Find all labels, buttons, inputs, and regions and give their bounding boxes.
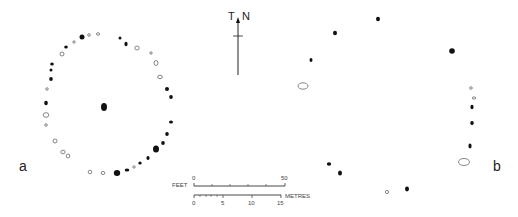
panel-b-label: b: [493, 158, 501, 174]
panel-b-filled-stone: [376, 17, 380, 21]
panel-a-filled-stone: [64, 46, 68, 49]
panel-b-open-stone: [470, 87, 473, 90]
panel-a-filled-stone: [146, 156, 149, 160]
panel-b-open-stone: [472, 97, 476, 99]
scale-metres-tick-5: 5: [221, 200, 224, 206]
scale-feet-tick-0: 0: [192, 175, 195, 181]
panel-a-filled-stone: [124, 42, 127, 46]
panel-b-filled-stone: [333, 31, 337, 36]
panel-a-label: a: [19, 158, 27, 174]
panel-b-filled-stone: [470, 105, 473, 109]
panel-a-open-stone: [150, 52, 152, 54]
panel-a-filled-stone: [169, 95, 173, 99]
scale-bar-feet: [194, 183, 285, 186]
scale-metres-tick-10: 10: [248, 200, 255, 206]
panel-a-filled-stone: [50, 62, 54, 65]
scale-bar-metres: [194, 195, 281, 198]
panel-a-open-stone: [88, 34, 91, 37]
panel-a-open-stone: [66, 154, 70, 158]
scale-metres-tick-0: 0: [192, 200, 195, 206]
panel-a-open-stone: [88, 170, 92, 174]
panel-a-open-stone: [60, 52, 64, 56]
panel-a-filled-stone: [165, 87, 169, 91]
panel-a-stone-circle: [43, 33, 173, 176]
panel-a-filled-stone: [153, 146, 159, 153]
panel-a-filled-stone: [114, 170, 120, 176]
panel-b-filled-stone: [470, 121, 474, 125]
panel-a-open-stone: [133, 166, 135, 168]
panel-a-filled-stone: [165, 132, 169, 136]
north-label-t: T: [228, 10, 235, 22]
panel-a-open-stone: [73, 41, 75, 43]
panel-b-open-stone: [459, 159, 470, 166]
panel-a-filled-stone: [161, 141, 165, 145]
panel-a-open-stone: [101, 171, 105, 174]
panel-a-filled-stone: [119, 37, 122, 40]
scale-metres-label: METRES: [285, 193, 310, 199]
north-arrow-icon: [233, 17, 243, 75]
scale-metres-tick-15: 15: [277, 200, 284, 206]
panel-a-open-stone: [154, 61, 158, 66]
panel-a-open-stone: [61, 150, 65, 154]
panel-a-open-stone: [158, 75, 163, 78]
panel-b-filled-stone: [338, 170, 342, 175]
panel-b-stone-circle: [298, 17, 476, 194]
stone-circle-plan-diagram: [0, 0, 518, 217]
panel-a-centre-filled-stone: [101, 103, 107, 111]
panel-b-filled-stone: [405, 187, 409, 192]
panel-b-filled-stone: [449, 48, 455, 54]
panel-a-open-stone: [43, 113, 49, 118]
panel-b-filled-stone: [468, 144, 471, 149]
panel-a-open-stone: [135, 46, 139, 50]
panel-a-open-stone: [46, 88, 49, 90]
panel-a-filled-stone: [125, 168, 130, 171]
north-label-n: N: [242, 10, 250, 22]
panel-a-open-stone: [97, 33, 100, 36]
panel-a-filled-stone: [50, 68, 53, 71]
panel-b-open-stone: [385, 190, 388, 193]
panel-a-open-stone: [45, 124, 48, 127]
panel-b-filled-stone: [310, 58, 313, 62]
panel-b-filled-stone: [327, 162, 331, 166]
panel-a-filled-stone: [138, 162, 141, 165]
panel-b-open-stone: [298, 83, 308, 89]
panel-a-filled-stone: [169, 120, 173, 123]
panel-a-filled-stone: [49, 77, 53, 81]
panel-a-filled-stone: [80, 35, 85, 40]
panel-a-open-stone: [53, 139, 57, 143]
panel-a-filled-stone: [44, 101, 48, 105]
scale-feet-tick-50: 50: [281, 175, 288, 181]
scale-feet-label: FEET: [172, 182, 187, 188]
